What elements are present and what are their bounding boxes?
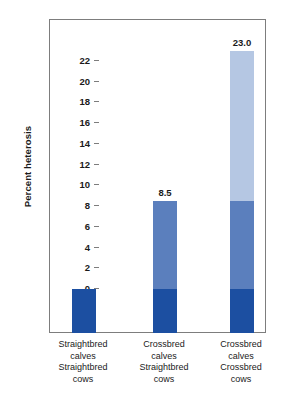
x-axis-label-line: cows — [191, 374, 286, 386]
bar-2[interactable]: 8.5 — [153, 20, 177, 334]
bar-value-label-2: 8.5 — [135, 187, 195, 198]
x-axis-label-line: calves — [191, 351, 286, 363]
x-axis-label-line: Crossbred — [191, 362, 286, 374]
x-axis-label-line: Crossbred — [191, 339, 286, 351]
x-axis-label-3: CrossbredcalvesCrossbredcows — [191, 339, 286, 385]
bar-segment-individual-heterosis — [230, 201, 254, 289]
plot-area: 0246810121416182022 8.523.0 — [49, 19, 266, 333]
chart-figure: Percent heterosis 0246810121416182022 8.… — [0, 0, 286, 401]
bar-1[interactable] — [72, 20, 96, 334]
bar-segment-maternal-heterosis — [230, 51, 254, 201]
bar-segment-individual-heterosis — [153, 201, 177, 289]
bar-segment-baseline — [72, 289, 96, 333]
bar-segment-baseline — [153, 289, 177, 333]
bar-value-label-3: 23.0 — [212, 37, 272, 48]
y-axis-title: Percent heterosis — [22, 97, 33, 237]
bar-3[interactable]: 23.0 — [230, 20, 254, 334]
bar-segment-baseline — [230, 289, 254, 333]
